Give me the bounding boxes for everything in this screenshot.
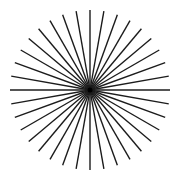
center-dot xyxy=(88,88,93,93)
starburst-svg xyxy=(0,0,180,178)
starburst-figure xyxy=(0,0,180,178)
